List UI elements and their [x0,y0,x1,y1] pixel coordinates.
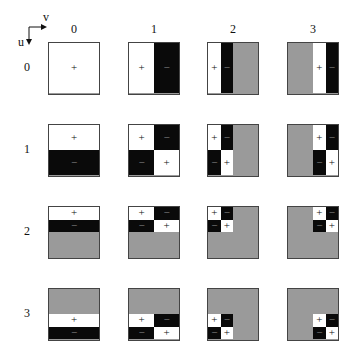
row-label: 2 [20,225,34,237]
plus-sign: + [137,62,147,73]
negative-region: − [326,43,339,93]
minus-sign: − [222,314,232,325]
basis-cell-u1-v3: +−−+ [287,124,339,177]
positive-region: + [208,43,221,93]
negative-region: − [208,220,221,233]
minus-sign: − [314,327,324,338]
plus-sign: + [209,132,219,143]
plus-sign: + [137,207,147,218]
minus-sign: − [162,207,172,218]
plus-sign: + [222,157,232,168]
minus-sign: − [222,207,232,218]
plus-sign: + [209,207,219,218]
minus-sign: − [162,132,172,143]
basis-cell-u1-v0: +− [48,124,100,177]
negative-region: − [326,207,339,220]
positive-region: + [129,207,154,220]
v-axis-label: v [40,11,52,23]
row-label: 1 [20,143,34,155]
negative-region: − [129,327,154,340]
plus-sign: + [209,62,219,73]
positive-region: + [313,207,326,220]
column-label: 2 [223,23,243,35]
negative-region: − [49,327,99,340]
column-label: 1 [144,23,164,35]
plus-sign: + [327,327,337,338]
plus-sign: + [69,62,79,73]
plus-sign: + [327,157,337,168]
positive-region: + [154,327,179,340]
minus-sign: − [69,157,79,168]
positive-region: + [154,220,179,233]
column-label: 3 [303,23,323,35]
positive-region: + [208,125,221,150]
negative-region: − [326,125,339,150]
minus-sign: − [327,314,337,325]
positive-region: + [129,125,154,150]
plus-sign: + [137,132,147,143]
negative-region: − [221,43,234,93]
negative-region: − [154,314,179,327]
positive-region: + [129,314,154,327]
minus-sign: − [137,157,147,168]
negative-region: − [313,220,326,233]
positive-region: + [326,150,339,175]
negative-region: − [208,327,221,340]
u-axis-label: u [15,36,27,48]
minus-sign: − [209,157,219,168]
basis-cell-u3-v2: +−−+ [207,288,259,341]
negative-region: − [208,150,221,175]
negative-region: − [326,314,339,327]
plus-sign: + [162,157,172,168]
negative-region: − [129,220,154,233]
minus-sign: − [314,157,324,168]
plus-sign: + [314,314,324,325]
positive-region: + [154,150,179,175]
minus-sign: − [209,220,219,231]
basis-cell-u0-v1: +− [128,42,180,95]
basis-cell-u0-v3: +− [287,42,339,95]
basis-cell-u0-v0: + [48,42,100,95]
plus-sign: + [209,314,219,325]
positive-region: + [326,220,339,233]
plus-sign: + [327,220,337,231]
basis-cell-u3-v1: +−−+ [128,288,180,341]
positive-region: + [313,125,326,150]
minus-sign: − [162,62,172,73]
positive-region: + [49,125,99,150]
plus-sign: + [314,132,324,143]
positive-region: + [208,207,221,220]
minus-sign: − [327,62,337,73]
negative-region: − [313,150,326,175]
plus-sign: + [69,314,79,325]
basis-cell-u2-v2: +−−+ [207,206,259,259]
positive-region: + [221,150,234,175]
positive-region: + [49,314,99,327]
positive-region: + [313,314,326,327]
negative-region: − [313,327,326,340]
negative-region: − [49,150,99,175]
positive-region: + [208,314,221,327]
minus-sign: − [327,132,337,143]
negative-region: − [221,207,234,220]
positive-region: + [49,207,99,220]
minus-sign: − [222,132,232,143]
positive-region: + [313,43,326,93]
basis-cell-u2-v0: +− [48,206,100,259]
negative-region: − [154,125,179,150]
negative-region: − [221,125,234,150]
minus-sign: − [222,62,232,73]
basis-cell-u3-v0: +− [48,288,100,341]
row-label: 3 [20,307,34,319]
plus-sign: + [314,207,324,218]
negative-region: − [49,220,99,233]
plus-sign: + [314,62,324,73]
negative-region: − [129,150,154,175]
minus-sign: − [209,327,219,338]
basis-cell-u2-v1: +−−+ [128,206,180,259]
negative-region: − [154,43,179,93]
plus-sign: + [137,314,147,325]
negative-region: − [221,314,234,327]
row-label: 0 [20,61,34,73]
basis-cell-u3-v3: +−−+ [287,288,339,341]
